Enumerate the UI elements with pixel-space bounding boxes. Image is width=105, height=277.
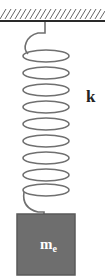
mass-spring-diagram: k me (0, 0, 105, 277)
spring (23, 22, 69, 215)
ceiling-hatching (0, 9, 105, 19)
mass-label-subscript: e (53, 243, 58, 254)
spring-constant-label: k (86, 87, 96, 106)
